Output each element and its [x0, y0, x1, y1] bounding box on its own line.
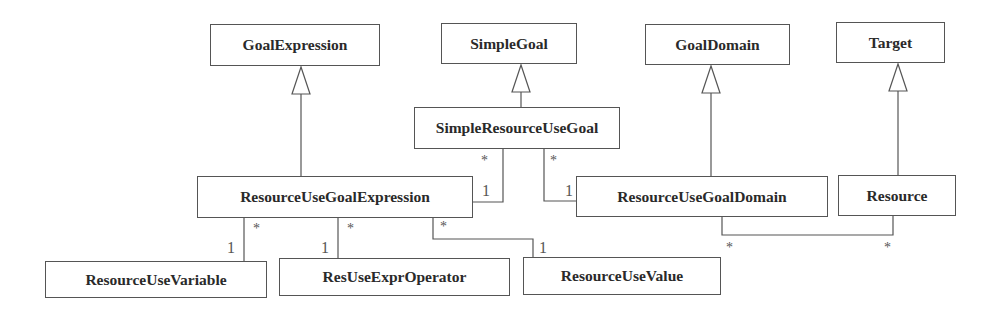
class-simple-resource-use-goal: SimpleResourceUseGoal [414, 107, 620, 149]
multiplicity-label: 1 [482, 183, 490, 199]
multiplicity-label: * [726, 241, 733, 255]
multiplicity-label: 1 [227, 240, 235, 256]
multiplicity-label: * [884, 241, 891, 255]
multiplicity-label: * [253, 222, 260, 236]
class-simple-goal: SimpleGoal [441, 23, 577, 64]
multiplicity-label: 1 [321, 240, 329, 256]
class-goal-expression: GoalExpression [210, 24, 380, 66]
class-resource-use-goal-expression: ResourceUseGoalExpression [197, 176, 473, 218]
generalization-arrow-icon [889, 64, 907, 91]
class-resource: Resource [838, 175, 956, 216]
multiplicity-label: * [347, 222, 354, 236]
class-resource-use-value: ResourceUseValue [523, 257, 721, 295]
generalization-arrow-icon [702, 66, 720, 93]
class-resource-use-goal-domain: ResourceUseGoalDomain [576, 176, 828, 217]
multiplicity-label: * [481, 154, 488, 168]
class-resource-use-variable: ResourceUseVariable [45, 261, 267, 298]
association-line [433, 218, 533, 257]
class-target: Target [836, 22, 945, 63]
class-goal-domain: GoalDomain [645, 24, 790, 65]
uml-class-diagram: GoalExpression SimpleGoal GoalDomain Tar… [0, 0, 996, 317]
association-line [722, 216, 893, 235]
multiplicity-label: * [440, 220, 447, 234]
multiplicity-label: * [550, 154, 557, 168]
multiplicity-label: 1 [539, 240, 547, 256]
generalization-arrow-icon [512, 65, 530, 92]
class-res-use-expr-operator: ResUseExprOperator [279, 258, 510, 296]
generalization-arrow-icon [292, 67, 310, 94]
multiplicity-label: 1 [565, 183, 573, 199]
